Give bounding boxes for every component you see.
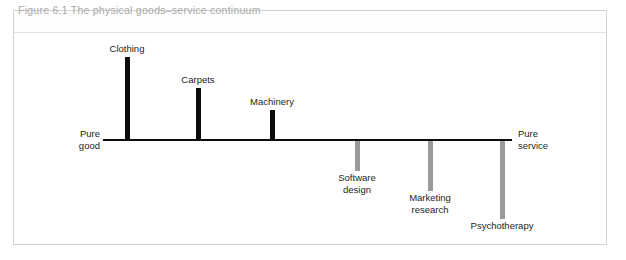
continuum-plot: Pure good Pure service Clothing Carpets … — [0, 0, 626, 260]
axis-left-end-label-line1: Pure — [60, 128, 100, 140]
label-carpets-line1: Carpets — [148, 74, 248, 86]
label-machinery-line1: Machinery — [222, 96, 322, 108]
axis-right-end-label-line2: service — [518, 140, 578, 152]
label-marketing-research-line2: research — [380, 204, 480, 216]
stem-software-design — [355, 141, 360, 171]
stem-clothing — [125, 57, 130, 140]
axis-left-end-label-line2: good — [60, 140, 100, 152]
continuum-axis-line — [103, 139, 512, 141]
stem-carpets — [196, 88, 201, 140]
label-clothing-line1: Clothing — [77, 43, 177, 55]
stem-psychotherapy — [500, 141, 505, 219]
label-marketing-research-line1: Marketing — [380, 192, 480, 204]
label-software-design-line1: Software — [307, 172, 407, 184]
stem-machinery — [270, 110, 275, 140]
label-carpets: Carpets — [148, 74, 248, 86]
axis-right-end-label: Pure service — [518, 128, 578, 152]
axis-left-end-label: Pure good — [60, 128, 100, 152]
axis-right-end-label-line1: Pure — [518, 128, 578, 140]
stem-marketing-research — [428, 141, 433, 191]
label-marketing-research: Marketing research — [380, 192, 480, 216]
label-machinery: Machinery — [222, 96, 322, 108]
label-psychotherapy: Psychotherapy — [452, 220, 552, 232]
figure-root: Figure 6.1 The physical goods–service co… — [0, 0, 626, 260]
label-clothing: Clothing — [77, 43, 177, 55]
label-psychotherapy-line1: Psychotherapy — [452, 220, 552, 232]
